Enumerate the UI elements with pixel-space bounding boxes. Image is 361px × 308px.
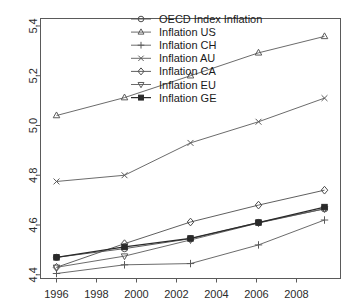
y-axis-tick-label: 5.0 — [28, 118, 40, 133]
x-axis-tick-label: 2004 — [204, 288, 228, 300]
series-oecd-index-inflation — [53, 206, 327, 261]
legend-item-inflation-ge[interactable]: Inflation GE — [131, 92, 216, 104]
legend-label: OECD Index Inflation — [159, 13, 262, 25]
line-chart: 4.44.64.85.05.25.4 199619982000200220042… — [0, 0, 361, 308]
legend-item-oecd-index-inflation[interactable]: OECD Index Inflation — [131, 13, 262, 25]
legend-label: Inflation US — [159, 26, 216, 38]
x-axis-tick-label: 2006 — [244, 288, 268, 300]
legend-item-inflation-au[interactable]: Inflation AU — [131, 52, 215, 64]
x-axis-tick-label: 2008 — [284, 288, 308, 300]
legend-item-inflation-ch[interactable]: Inflation CH — [131, 39, 217, 51]
series-inflation-ge — [54, 204, 327, 260]
x-axis-tick-label: 2002 — [164, 288, 188, 300]
legend-label: Inflation CA — [159, 65, 217, 77]
legend-item-inflation-eu[interactable]: Inflation EU — [131, 79, 216, 91]
chart-canvas: 4.44.64.85.05.25.4 199619982000200220042… — [0, 0, 361, 308]
legend-label: Inflation EU — [159, 79, 216, 91]
x-axis-tick-label: 2000 — [124, 288, 148, 300]
y-axis-tick-label: 4.6 — [28, 217, 40, 232]
series-inflation-ca — [53, 186, 328, 271]
legend-label: Inflation GE — [159, 92, 216, 104]
y-axis-tick-label: 4.8 — [28, 168, 40, 183]
y-axis-tick-label: 5.2 — [28, 68, 40, 83]
legend-item-inflation-ca[interactable]: Inflation CA — [131, 65, 217, 77]
y-axis-tick-label: 4.4 — [28, 267, 40, 282]
x-axis-tick-label: 1996 — [44, 288, 68, 300]
x-axis: 1996199820002002200420062008 — [41, 279, 341, 300]
legend-item-inflation-us[interactable]: Inflation US — [131, 26, 216, 38]
y-axis: 4.44.64.85.05.25.4 — [28, 18, 41, 282]
legend-label: Inflation AU — [159, 52, 215, 64]
x-axis-tick-label: 1998 — [84, 288, 108, 300]
series-inflation-au — [54, 95, 328, 184]
legend-label: Inflation CH — [159, 39, 217, 51]
y-axis-tick-label: 5.4 — [28, 18, 40, 33]
